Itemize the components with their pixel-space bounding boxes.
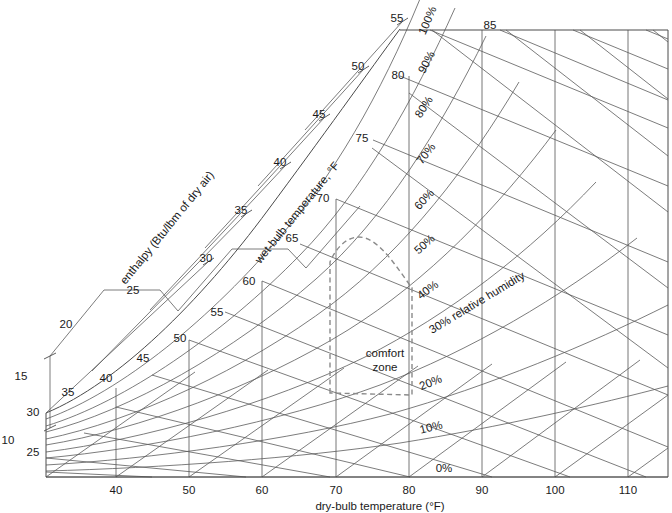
chart-canvas: 40 50 60 70 80 90 100 110 dry-bulb tempe… <box>0 0 672 513</box>
enthalpy-label-55: 55 <box>391 12 404 24</box>
enthalpy-label-45: 45 <box>313 108 326 120</box>
enthalpy-label-15: 15 <box>15 370 28 382</box>
rh-label-0: 0% <box>436 462 453 474</box>
wetbulb-label-40: 40 <box>100 372 113 384</box>
comfort-zone-label-line1: comfort <box>366 347 405 359</box>
enthalpy-label-30: 30 <box>200 252 213 264</box>
x-tick-label-60: 60 <box>256 484 269 496</box>
enthalpy-label-25: 25 <box>127 284 140 296</box>
wetbulb-label-55: 55 <box>211 306 224 318</box>
wetbulb-label-50: 50 <box>174 332 187 344</box>
x-tick-label-80: 80 <box>403 484 416 496</box>
x-tick-label-50: 50 <box>183 484 196 496</box>
enthalpy-label-40: 40 <box>274 156 287 168</box>
enthalpy-label-35: 35 <box>235 204 248 216</box>
wetbulb-label-75: 75 <box>356 132 369 144</box>
enthalpy-label-20: 20 <box>60 318 73 330</box>
enthalpy-label-10: 10 <box>2 434 15 446</box>
psychrometric-chart: 40 50 60 70 80 90 100 110 dry-bulb tempe… <box>0 0 672 513</box>
wetbulb-label-30: 30 <box>27 406 40 418</box>
x-tick-label-90: 90 <box>476 484 489 496</box>
x-tick-label-100: 100 <box>545 484 564 496</box>
x-tick-label-110: 110 <box>619 484 637 496</box>
wetbulb-label-45: 45 <box>137 352 150 364</box>
x-axis-title: dry-bulb temperature (°F) <box>315 500 444 512</box>
enthalpy-label-50: 50 <box>352 60 365 72</box>
wetbulb-label-35: 35 <box>62 386 75 398</box>
wetbulb-label-60: 60 <box>243 275 256 287</box>
wetbulb-label-80: 80 <box>392 69 405 81</box>
comfort-zone-label-line2: zone <box>373 361 398 373</box>
wetbulb-label-65: 65 <box>286 232 299 244</box>
x-tick-label-70: 70 <box>330 484 343 496</box>
wetbulb-label-85: 85 <box>484 19 497 31</box>
x-tick-label-40: 40 <box>110 484 123 496</box>
wetbulb-label-25: 25 <box>27 446 40 458</box>
